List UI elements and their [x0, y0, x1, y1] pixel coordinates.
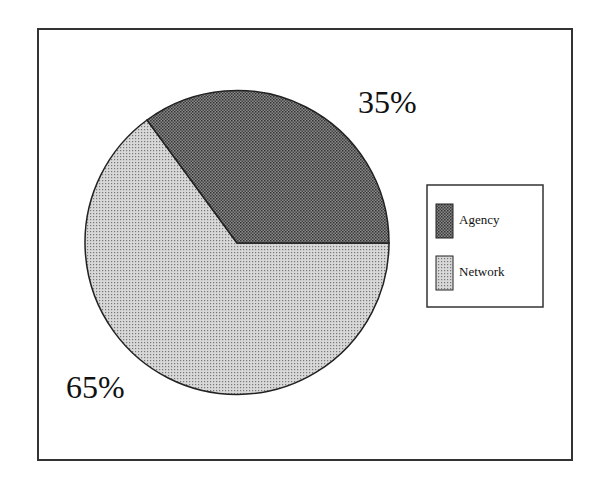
agency-percent-label: 35% [358, 86, 417, 118]
legend-label-network: Network [459, 265, 505, 278]
legend-label-agency: Agency [459, 213, 499, 226]
network-percent-label: 65% [66, 371, 125, 403]
legend-swatch-network [436, 256, 453, 290]
pie-chart [0, 0, 598, 486]
legend-swatch-agency [436, 204, 453, 238]
